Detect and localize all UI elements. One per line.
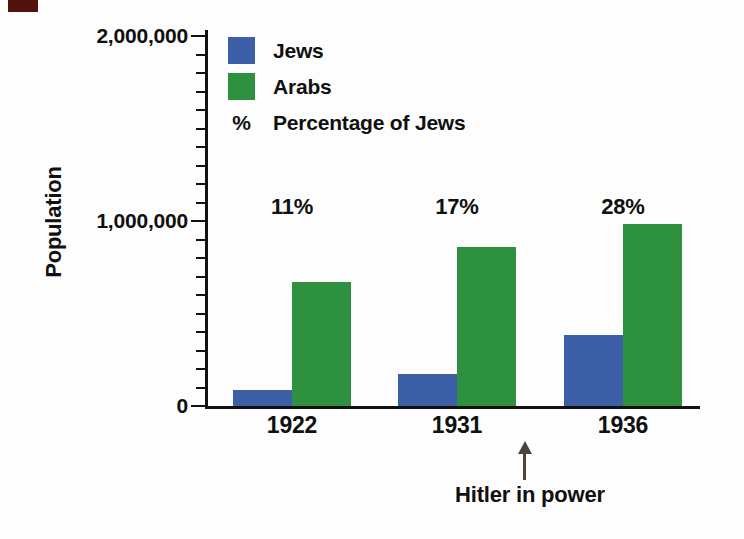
y-minor-tick xyxy=(196,257,205,259)
y-minor-tick xyxy=(196,165,205,167)
y-minor-tick xyxy=(196,146,205,148)
y-minor-tick xyxy=(196,294,205,296)
legend-row-percentage: % Percentage of Jews xyxy=(228,109,466,136)
hitler-annotation-label: Hitler in power xyxy=(430,482,630,508)
legend: Jews Arabs % Percentage of Jews xyxy=(228,37,466,145)
arabs-swatch-icon xyxy=(228,73,255,100)
y-minor-tick xyxy=(196,313,205,315)
bar-jews-1936 xyxy=(564,335,623,406)
y-minor-tick xyxy=(196,54,205,56)
y-tick-label-2000000: 2,000,000 xyxy=(38,24,188,48)
percent-label-1936: 28% xyxy=(563,194,683,220)
bar-arabs-1922 xyxy=(292,282,351,406)
arabs-legend-label: Arabs xyxy=(273,75,332,99)
y-axis-line xyxy=(205,30,208,409)
y-major-tick xyxy=(191,405,205,407)
legend-row-arabs: Arabs xyxy=(228,73,466,100)
y-minor-tick xyxy=(196,91,205,93)
y-major-tick xyxy=(191,220,205,222)
y-minor-tick xyxy=(196,331,205,333)
population-bar-chart-figure: Population 01,000,0002,000,000 11%17%28%… xyxy=(0,0,744,539)
y-minor-tick xyxy=(196,72,205,74)
legend-row-jews: Jews xyxy=(228,37,466,64)
page-corner-mark xyxy=(8,0,38,12)
y-minor-tick xyxy=(196,387,205,389)
bar-arabs-1936 xyxy=(623,224,682,406)
x-tick-label-1931: 1931 xyxy=(397,412,517,438)
x-tick-label-1922: 1922 xyxy=(232,412,352,438)
percent-label-1922: 11% xyxy=(232,194,352,220)
percent-label-1931: 17% xyxy=(397,194,517,220)
x-tick-label-1936: 1936 xyxy=(563,412,683,438)
y-major-tick xyxy=(191,35,205,37)
x-axis-line xyxy=(205,406,700,409)
jews-swatch-icon xyxy=(228,37,255,64)
y-minor-tick xyxy=(196,109,205,111)
y-minor-tick xyxy=(196,368,205,370)
bar-jews-1922 xyxy=(233,390,292,406)
jews-legend-label: Jews xyxy=(273,39,324,63)
up-arrow-shaft xyxy=(523,452,526,480)
y-minor-tick xyxy=(196,128,205,130)
y-tick-label-1000000: 1,000,000 xyxy=(38,209,188,233)
y-minor-tick xyxy=(196,239,205,241)
bar-arabs-1931 xyxy=(457,247,516,406)
y-minor-tick xyxy=(196,350,205,352)
y-minor-tick xyxy=(196,183,205,185)
y-minor-tick xyxy=(196,202,205,204)
y-tick-label-0: 0 xyxy=(38,394,188,418)
bar-jews-1931 xyxy=(398,374,457,406)
percent-symbol: % xyxy=(228,111,255,135)
y-minor-tick xyxy=(196,276,205,278)
percentage-legend-label: Percentage of Jews xyxy=(273,111,466,135)
